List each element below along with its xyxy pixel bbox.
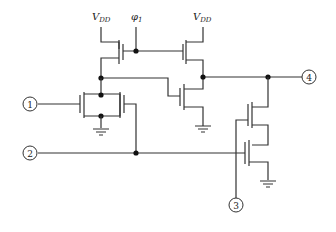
pin-1[interactable]: 1 [23,97,37,111]
transistor-precharge-left [101,27,123,78]
clock-node-dot [133,48,138,53]
transistor-pair-left [38,78,136,153]
node-a-wire [98,75,180,96]
ground-icon [260,181,276,187]
pin-2[interactable]: 2 [23,146,37,160]
vdd-left-label: VDD [92,11,111,24]
pin-2-wire [38,150,245,155]
ground-icon [93,129,109,135]
vdd-right-label: VDD [193,11,212,24]
svg-text:4: 4 [306,73,312,83]
pin-4[interactable]: 4 [302,70,316,84]
transistor-stack-right [236,77,276,200]
ground-icon [195,126,211,132]
node-b-wire [200,74,302,79]
clock-phi1-label: φ1 [131,11,142,24]
svg-text:2: 2 [27,149,33,159]
svg-text:1: 1 [27,100,33,110]
pin-3[interactable]: 3 [229,198,243,212]
transistor-pullup-right [183,27,203,77]
svg-text:φ1: φ1 [131,11,142,24]
transistor-pulldown-right [180,77,211,132]
svg-text:VDD: VDD [193,11,212,24]
svg-text:VDD: VDD [92,11,111,24]
clock-line [123,27,183,54]
circuit-schematic: VDD φ1 VDD [0,0,336,232]
svg-text:3: 3 [233,201,239,211]
